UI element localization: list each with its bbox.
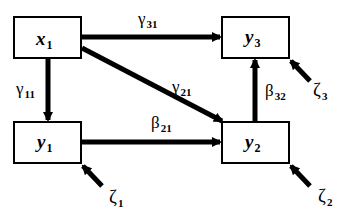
node-label-x1: x1 [36, 29, 53, 51]
disturbance-subscript: 3 [322, 90, 328, 102]
disturbance-symbol: ζ [313, 79, 321, 100]
node-label-y1: y1 [37, 132, 52, 154]
edge-subscript: 11 [25, 88, 35, 100]
disturbance-arrow-y1 [83, 166, 102, 186]
edge-label-beta32: β32 [265, 82, 286, 102]
edge-symbol: γ [16, 79, 24, 98]
disturbance-arrow-y2 [291, 166, 310, 186]
edge-symbol: β [151, 113, 160, 132]
node-symbol: y [245, 26, 253, 47]
disturbance-label-zeta1: ζ1 [109, 187, 123, 209]
node-label-y3: y3 [245, 27, 260, 49]
edge-label-gamma11: γ11 [16, 80, 35, 100]
edge-label-beta21: β21 [151, 114, 172, 134]
edge-subscript: 21 [181, 86, 192, 98]
edge-subscript: 32 [275, 90, 286, 102]
node-subscript: 1 [46, 141, 52, 155]
disturbance-arrow-y3 [291, 61, 310, 81]
edge-symbol: γ [172, 77, 180, 96]
node-symbol: x [36, 28, 46, 49]
edge-subscript: 31 [147, 18, 158, 30]
node-symbol: y [37, 131, 45, 152]
disturbance-subscript: 2 [327, 196, 333, 208]
node-subscript: 2 [254, 141, 260, 155]
node-label-y2: y2 [245, 132, 260, 154]
disturbance-label-zeta3: ζ3 [313, 80, 327, 102]
disturbance-label-zeta2: ζ2 [318, 186, 332, 208]
edge-label-gamma21: γ21 [172, 78, 192, 98]
disturbance-symbol: ζ [109, 186, 117, 207]
edge-subscript: 21 [161, 122, 172, 134]
node-subscript: 1 [47, 38, 53, 52]
edge-x1-y2 [82, 48, 222, 121]
edge-symbol: γ [138, 9, 146, 28]
disturbance-symbol: ζ [318, 185, 326, 206]
node-subscript: 3 [254, 36, 260, 50]
node-symbol: y [245, 131, 253, 152]
edge-symbol: β [265, 81, 274, 100]
disturbance-subscript: 1 [118, 197, 124, 209]
edge-label-gamma31: γ31 [138, 10, 158, 30]
